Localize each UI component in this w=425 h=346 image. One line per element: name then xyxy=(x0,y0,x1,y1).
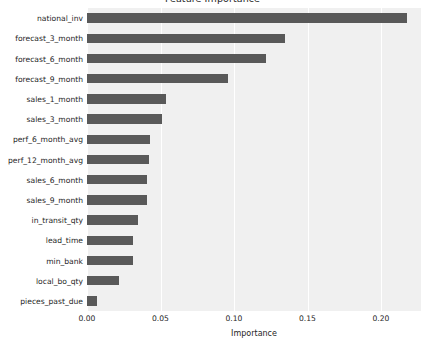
chart-title: Feature Importance xyxy=(0,0,425,4)
bar xyxy=(87,155,149,165)
y-axis-tick-label: lead_time xyxy=(0,236,83,245)
x-axis-tick-label: 0.05 xyxy=(152,314,169,323)
y-axis-tick-label: sales_1_month xyxy=(0,94,83,103)
bar-row xyxy=(87,291,421,311)
bar-row xyxy=(87,28,421,48)
bar xyxy=(87,296,97,306)
plot-area xyxy=(87,8,421,311)
y-axis-tick-label: local_bo_qty xyxy=(0,276,83,285)
bar-row xyxy=(87,190,421,210)
bar xyxy=(87,94,166,104)
y-axis-tick-label: sales_6_month xyxy=(0,175,83,184)
bar xyxy=(87,74,228,84)
feature-importance-chart: Feature Importance national_invforecast_… xyxy=(0,0,425,346)
bar xyxy=(87,276,119,286)
bar xyxy=(87,236,133,246)
y-axis-tick-label: forecast_6_month xyxy=(0,54,83,63)
y-axis-tick-label: pieces_past_due xyxy=(0,296,83,305)
x-axis-tick-label: 0.20 xyxy=(373,314,390,323)
bar-row xyxy=(87,271,421,291)
bar-row xyxy=(87,48,421,68)
y-axis-tick-label: sales_3_month xyxy=(0,115,83,124)
x-axis-tick-labels: 0.000.050.100.150.20 xyxy=(87,314,421,326)
bar-row xyxy=(87,230,421,250)
x-axis-tick-label: 0.00 xyxy=(79,314,96,323)
bar xyxy=(87,195,147,205)
bar-series xyxy=(87,8,421,311)
bar xyxy=(87,114,162,124)
bar xyxy=(87,215,138,225)
x-axis-tick-label: 0.15 xyxy=(299,314,316,323)
bar xyxy=(87,34,285,44)
y-axis-tick-label: perf_12_month_avg xyxy=(0,155,83,164)
bar xyxy=(87,54,266,64)
y-axis-tick-label: sales_9_month xyxy=(0,195,83,204)
y-axis-tick-label: forecast_9_month xyxy=(0,74,83,83)
x-axis-tick-label: 0.10 xyxy=(226,314,243,323)
y-axis-tick-label: in_transit_qty xyxy=(0,216,83,225)
y-axis-tick-label: forecast_3_month xyxy=(0,34,83,43)
y-axis-tick-label: national_inv xyxy=(0,14,83,23)
bar-row xyxy=(87,149,421,169)
bar-row xyxy=(87,69,421,89)
bar-row xyxy=(87,210,421,230)
bar-row xyxy=(87,170,421,190)
y-axis-tick-label: perf_6_month_avg xyxy=(0,135,83,144)
bar-row xyxy=(87,250,421,270)
bar xyxy=(87,135,150,145)
bar xyxy=(87,13,407,23)
bar-row xyxy=(87,8,421,28)
bar-row xyxy=(87,109,421,129)
bar xyxy=(87,175,147,185)
bar xyxy=(87,256,133,266)
x-axis-title: Importance xyxy=(87,329,421,338)
y-axis-tick-label: min_bank xyxy=(0,256,83,265)
y-axis-tick-labels: national_invforecast_3_monthforecast_6_m… xyxy=(0,8,83,311)
bar-row xyxy=(87,89,421,109)
bar-row xyxy=(87,129,421,149)
